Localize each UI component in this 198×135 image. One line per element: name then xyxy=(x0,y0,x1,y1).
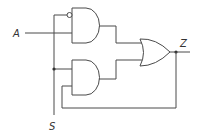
wire-and2-to-or xyxy=(99,60,143,79)
label-s: S xyxy=(49,121,56,132)
logic-circuit-diagram: A S Z xyxy=(0,0,198,135)
inverter-bubble xyxy=(67,13,72,18)
and-gate-1 xyxy=(72,8,100,43)
junction-dot-s xyxy=(52,67,55,70)
label-a: A xyxy=(12,28,20,39)
label-z: Z xyxy=(179,38,188,49)
or-gate xyxy=(140,39,170,66)
and-gate-2 xyxy=(72,60,99,95)
wire-and1-to-or xyxy=(99,26,143,43)
